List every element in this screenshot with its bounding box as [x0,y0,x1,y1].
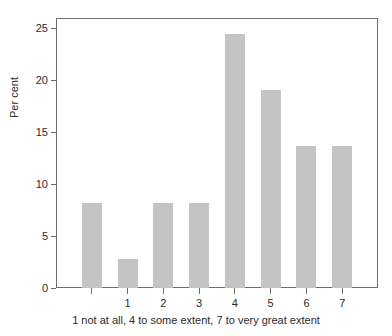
bar [189,203,209,288]
x-axis-tick-label: 7 [328,296,356,310]
y-axis: 0510152025 [0,0,56,336]
y-axis-tick-label: 0 [42,280,48,296]
bar [82,203,102,288]
y-axis-tick-label: 5 [42,228,48,244]
x-axis-tick-label: 6 [292,296,320,310]
x-axis-tick-mark [163,288,164,294]
bar [296,146,316,288]
x-axis-tick-mark [306,288,307,294]
x-axis-tick-mark [127,288,128,294]
x-axis-tick-mark [234,288,235,294]
x-axis-tick-mark [270,288,271,294]
y-axis-tick-label: 15 [36,124,48,140]
bar-chart-figure: Per cent 0510152025 1234567 1 not at all… [0,0,392,336]
y-axis-tick-label: 20 [36,72,48,88]
x-axis-tick-label: 3 [185,296,213,310]
bar [225,34,245,288]
x-axis-tick-label: 1 [114,296,142,310]
y-axis-tick-label: 10 [36,176,48,192]
y-axis-tick-label: 25 [36,20,48,36]
x-axis-tick-mark [91,288,92,294]
x-axis-tick-label: 2 [149,296,177,310]
bar [118,259,138,288]
x-axis-tick-label: 4 [221,296,249,310]
x-axis-title: 1 not at all, 4 to some extent, 7 to ver… [0,314,392,326]
bar [332,146,352,288]
x-axis: 1234567 [56,288,378,336]
bar [261,90,281,288]
x-axis-tick-mark [199,288,200,294]
x-axis-tick-mark [342,288,343,294]
bar [153,203,173,288]
x-axis-tick-label: 5 [257,296,285,310]
bars-layer [56,18,378,288]
